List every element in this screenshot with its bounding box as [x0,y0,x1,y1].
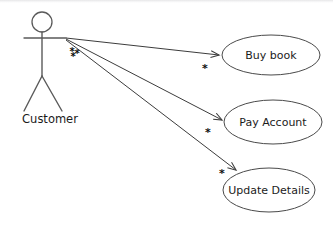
use-case-buy-book[interactable]: Buy book [222,35,320,75]
actor-customer[interactable]: Customer [22,12,78,126]
actor-head-icon [32,12,52,32]
association-customer-buy-book[interactable] [66,38,219,55]
use-case-label-buy-book: Buy book [245,49,297,62]
use-case-label-pay-account: Pay Account [239,116,307,129]
actor-multiplicity-cluster: * * * [69,46,80,62]
multiplicity-pay-account: * [205,126,211,139]
actor-left-leg-line [24,76,42,111]
association-lines [66,38,236,170]
use-case-update-details[interactable]: Update Details [223,168,315,212]
association-multiplicity-labels: * * * [202,62,225,180]
use-case-label-update-details: Update Details [228,184,310,197]
multiplicity-buy-book: * [202,62,208,75]
use-case-pay-account[interactable]: Pay Account [224,100,322,144]
association-customer-update-details[interactable] [66,40,236,170]
actor-multiplicity-3: * [70,51,76,62]
use-case-diagram-svg: Customer * * * Buy book Pay Account Upda… [0,0,333,226]
multiplicity-update-details: * [219,167,225,180]
actor-right-leg-line [42,76,62,111]
association-customer-pay-account[interactable] [66,39,222,120]
use-case-diagram-canvas: Customer * * * Buy book Pay Account Upda… [0,0,333,226]
actor-label-customer: Customer [22,112,78,126]
